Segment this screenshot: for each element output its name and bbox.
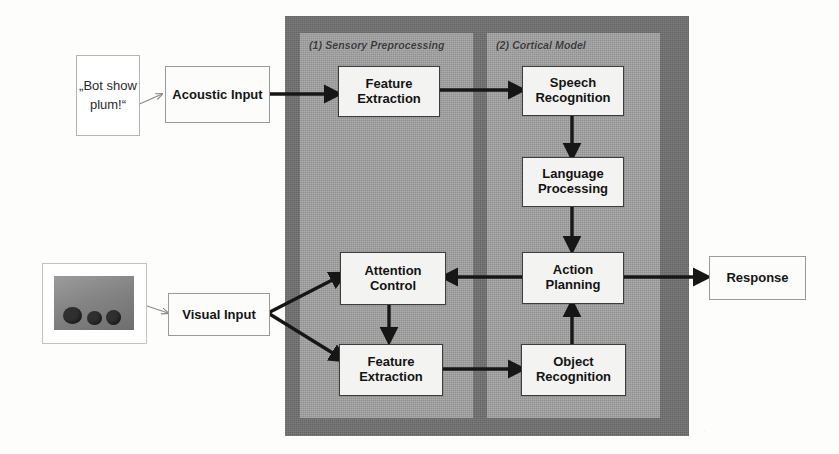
node-object-recognition: Object Recognition <box>521 344 626 396</box>
node-speech-recognition-line-2: Recognition <box>533 91 612 106</box>
acoustic-input-box: Acoustic Input <box>165 66 270 123</box>
visual-input-label: Visual Input <box>182 307 255 323</box>
speech-bubble-line-1: „Bot <box>79 78 103 93</box>
acoustic-input-line-2: Input <box>231 87 263 102</box>
panel-sensory-preprocessing-label: (1) Sensory Preprocessing <box>309 39 445 51</box>
node-language-processing-line-2: Processing <box>536 182 610 197</box>
node-feature-extraction-visual-line-1: Feature <box>357 355 425 370</box>
node-feature-extraction-audio-line-2: Extraction <box>355 92 423 107</box>
node-feature-extraction-visual: Feature Extraction <box>339 344 443 396</box>
node-object-recognition-line-2: Recognition <box>534 370 613 385</box>
node-speech-recognition-line-1: Speech <box>533 76 612 91</box>
response-box: Response <box>709 256 806 300</box>
scene-object-2 <box>87 311 102 325</box>
node-feature-extraction-audio-line-1: Feature <box>355 77 423 92</box>
node-attention-control-line-2: Control <box>362 279 423 294</box>
acoustic-input-line-1: Acoustic <box>172 87 227 102</box>
node-feature-extraction-visual-line-2: Extraction <box>357 370 425 385</box>
node-feature-extraction-audio: Feature Extraction <box>338 66 440 117</box>
node-attention-control-line-1: Attention <box>362 264 423 279</box>
node-language-processing-line-1: Language <box>536 167 610 182</box>
edge-scene-to-visual-input <box>144 305 168 313</box>
node-attention-control: Attention Control <box>340 252 446 305</box>
speech-bubble-line-3: plum!“ <box>90 97 126 112</box>
response-label: Response <box>726 270 788 286</box>
figure-canvas: (1) Sensory Preprocessing (2) Cortical M… <box>0 0 839 454</box>
node-object-recognition-line-1: Object <box>534 355 613 370</box>
scene-thumbnail-image <box>54 276 134 330</box>
panel-cortical-model-label: (2) Cortical Model <box>496 39 586 51</box>
speech-bubble-line-2: show <box>107 78 137 93</box>
scene-object-3 <box>106 310 121 325</box>
node-action-planning: Action Planning <box>522 252 624 304</box>
node-action-planning-line-2: Planning <box>544 278 603 293</box>
scene-object-1 <box>63 307 82 324</box>
speech-bubble: „Bot show plum!“ <box>76 55 140 136</box>
visual-input-box: Visual Input <box>168 293 270 336</box>
node-speech-recognition: Speech Recognition <box>522 66 624 116</box>
node-action-planning-line-1: Action <box>544 263 603 278</box>
node-language-processing: Language Processing <box>522 157 624 207</box>
scene-thumbnail-frame <box>42 263 147 344</box>
